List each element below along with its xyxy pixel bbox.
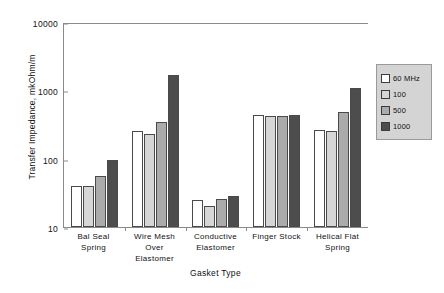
bar-group bbox=[307, 24, 368, 227]
bar bbox=[265, 116, 276, 227]
bar bbox=[192, 200, 203, 227]
category-label-line: Finger Stock bbox=[246, 231, 307, 242]
bar bbox=[168, 75, 179, 227]
bar bbox=[326, 131, 337, 227]
y-axis-tick-mark bbox=[64, 229, 68, 230]
legend-item-label: 100 bbox=[393, 90, 406, 99]
legend-swatch-icon bbox=[381, 90, 390, 99]
bar-group bbox=[125, 24, 186, 227]
bar bbox=[216, 199, 227, 227]
legend-swatch-icon bbox=[381, 106, 390, 115]
bar-group bbox=[64, 24, 125, 227]
legend-swatch-icon bbox=[381, 122, 390, 131]
x-axis-category-label: Helical FlatSpring bbox=[307, 231, 368, 264]
category-label-line: Wire Mesh bbox=[124, 231, 185, 242]
bar-group bbox=[186, 24, 247, 227]
legend-item-label: 60 MHz bbox=[393, 74, 420, 83]
legend-item: 100 bbox=[381, 86, 428, 102]
legend-item: 60 MHz bbox=[381, 70, 428, 86]
bar bbox=[204, 206, 215, 227]
x-axis-category-label: Finger Stock bbox=[246, 231, 307, 264]
legend-swatch-icon bbox=[381, 74, 390, 83]
bar bbox=[156, 122, 167, 228]
y-axis-tick-label: 1000 bbox=[38, 87, 64, 97]
category-label-line: Helical Flat bbox=[307, 231, 368, 242]
bar bbox=[277, 116, 288, 227]
y-axis-title: Transfer Impedance, mkOhm/m bbox=[27, 27, 37, 207]
category-label-line: Spring bbox=[307, 242, 368, 253]
bar-group bbox=[246, 24, 307, 227]
bar bbox=[107, 160, 118, 227]
bar bbox=[338, 112, 349, 227]
bar-chart: Transfer Impedance, mkOhm/m 100001000100… bbox=[0, 0, 444, 293]
bar bbox=[253, 115, 264, 227]
x-axis-category-labels: Bal SealSpringWire MeshOverElastomerCond… bbox=[63, 231, 368, 264]
bar bbox=[350, 88, 361, 227]
legend-item: 1000 bbox=[381, 118, 428, 134]
category-label-line: Elastomer bbox=[124, 253, 185, 264]
bar bbox=[228, 196, 239, 227]
category-label-line: Bal Seal bbox=[63, 231, 124, 242]
category-label-line: Spring bbox=[63, 242, 124, 253]
legend-item: 500 bbox=[381, 102, 428, 118]
legend-item-label: 500 bbox=[393, 106, 406, 115]
bar bbox=[83, 186, 94, 227]
x-axis-category-label: ConductiveElastomer bbox=[185, 231, 246, 264]
bar bbox=[314, 130, 325, 227]
bar bbox=[132, 131, 143, 227]
legend: 60 MHz1005001000 bbox=[376, 64, 432, 140]
y-axis-tick-label: 10000 bbox=[33, 19, 64, 29]
x-axis-title: Gasket Type bbox=[63, 268, 368, 278]
category-label-line: Elastomer bbox=[185, 242, 246, 253]
category-label-line: Over bbox=[124, 242, 185, 253]
x-axis-category-label: Wire MeshOverElastomer bbox=[124, 231, 185, 264]
y-axis-tick-label: 100 bbox=[43, 156, 64, 166]
x-axis-category-label: Bal SealSpring bbox=[63, 231, 124, 264]
bar bbox=[289, 115, 300, 227]
y-axis-tick-label: 10 bbox=[48, 224, 64, 234]
category-label-line: Conductive bbox=[185, 231, 246, 242]
bar bbox=[95, 176, 106, 227]
bars-layer bbox=[64, 24, 368, 227]
legend-item-label: 1000 bbox=[393, 122, 411, 131]
bar bbox=[144, 134, 155, 227]
plot-area: 10000100010010 bbox=[63, 23, 368, 228]
bar bbox=[71, 186, 82, 227]
